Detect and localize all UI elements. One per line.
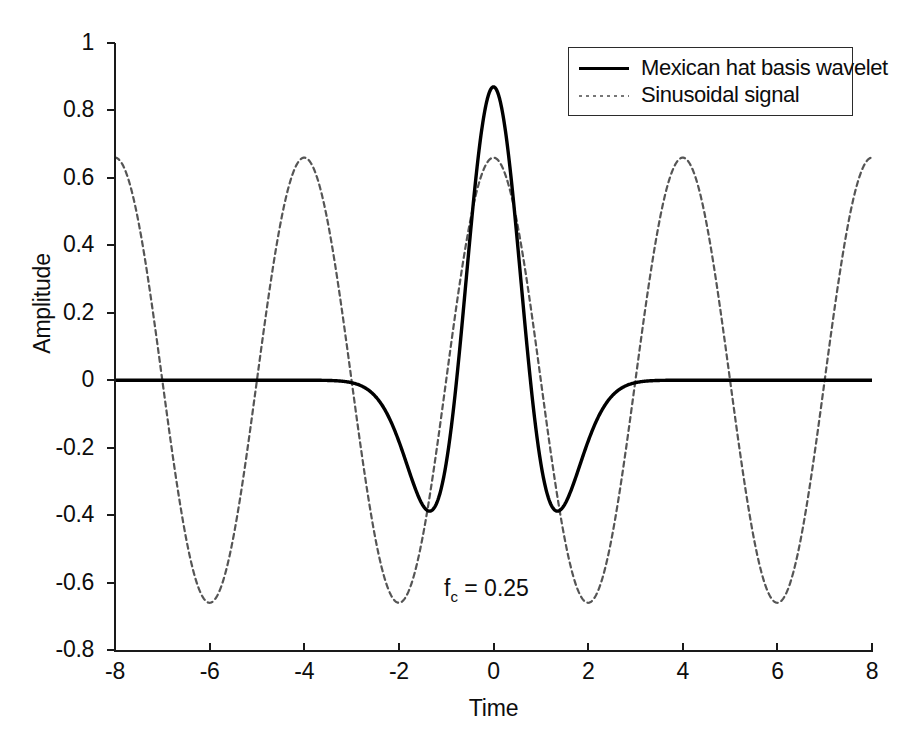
y-axis-spine <box>114 43 116 652</box>
figure-canvas: 10.80.60.40.20-0.2-0.4-0.6-0.8 -8-6-4-20… <box>0 0 913 745</box>
x-tick-label: 6 <box>747 660 807 683</box>
y-tick-label: -0.2 <box>24 436 94 459</box>
x-tick-mark <box>209 643 211 651</box>
y-tick-mark <box>107 447 115 449</box>
y-tick-label: 0.8 <box>24 98 94 121</box>
annotation-suffix: = 0.25 <box>458 575 529 601</box>
x-tick-label: -6 <box>180 660 240 683</box>
y-tick-label: -0.6 <box>24 571 94 594</box>
plot-area <box>115 43 872 650</box>
x-tick-mark <box>493 643 495 651</box>
y-tick-mark <box>107 312 115 314</box>
y-tick-mark <box>107 379 115 381</box>
x-tick-label: -2 <box>369 660 429 683</box>
x-axis-title: Time <box>115 695 872 722</box>
y-tick-mark <box>107 514 115 516</box>
x-tick-label: -8 <box>85 660 145 683</box>
plot-svg <box>115 43 872 650</box>
legend-entry-sinusoidal: Sinusoidal signal <box>575 81 846 108</box>
series-line-mexican-hat-wavelet <box>115 87 872 511</box>
legend-swatch-solid-line-icon <box>575 58 633 78</box>
x-tick-label: 0 <box>464 660 524 683</box>
legend-entry-mexican-hat: Mexican hat basis wavelet <box>575 54 846 81</box>
y-tick-label: -0.8 <box>24 638 94 661</box>
x-tick-mark <box>871 643 873 651</box>
x-tick-label: 4 <box>653 660 713 683</box>
y-tick-label: 0.6 <box>24 166 94 189</box>
y-tick-mark <box>107 244 115 246</box>
x-tick-mark <box>398 643 400 651</box>
y-tick-mark <box>107 582 115 584</box>
legend-swatch-dotted-line-icon <box>575 85 633 105</box>
legend-label-mexican-hat: Mexican hat basis wavelet <box>641 56 888 80</box>
x-tick-mark <box>776 643 778 651</box>
y-tick-mark <box>107 42 115 44</box>
x-tick-mark <box>114 643 116 651</box>
x-tick-label: -4 <box>274 660 334 683</box>
legend-label-sinusoidal: Sinusoidal signal <box>641 83 799 107</box>
x-tick-mark <box>303 643 305 651</box>
x-tick-label: 2 <box>558 660 618 683</box>
x-tick-mark <box>587 643 589 651</box>
annotation-subscript: c <box>450 588 458 605</box>
y-tick-label: -0.4 <box>24 503 94 526</box>
annotation-cutoff-frequency: fc = 0.25 <box>444 575 529 605</box>
x-tick-label: 8 <box>842 660 902 683</box>
x-tick-mark <box>682 643 684 651</box>
y-tick-mark <box>107 109 115 111</box>
legend-box: Mexican hat basis wavelet Sinusoidal sig… <box>568 47 853 116</box>
y-tick-mark <box>107 177 115 179</box>
y-axis-title: Amplitude <box>29 204 56 404</box>
y-tick-label: 1 <box>24 31 94 54</box>
